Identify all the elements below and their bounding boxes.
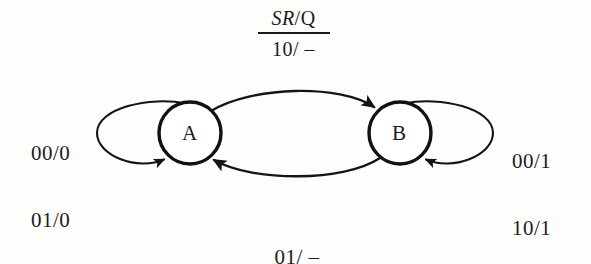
self-loop-labels-b: 00/1 10/1	[512, 107, 551, 264]
transition-label-b-to-a-0: 01/ –	[252, 244, 342, 264]
self-loop-labels-a: 00/0 01/0 11/0	[31, 99, 70, 264]
legend-numerator-output: /Q	[295, 7, 316, 29]
state-label-b: B	[392, 123, 406, 144]
self-loop-label-b-0: 00/1	[512, 149, 551, 174]
self-loop-label-b-1: 10/1	[512, 216, 551, 241]
state-diagram-canvas: A B SR/Q 10/ – 00/0 01/0 11/0 00/1 10/1 …	[0, 0, 591, 264]
transition-arc-a-to-b	[211, 91, 374, 111]
legend-numerator: SR/Q	[241, 6, 346, 31]
legend-denominator: 10/ –	[241, 36, 346, 62]
self-loop-label-a-1: 01/0	[31, 208, 70, 233]
transition-arc-b-to-a	[214, 158, 380, 176]
legend-numerator-inputs: SR	[271, 7, 294, 29]
self-loop-label-a-0: 00/0	[31, 141, 70, 166]
legend-fraction-bar	[258, 32, 330, 34]
transition-labels-b-to-a: 01/ – 11/ –	[252, 202, 342, 264]
state-label-a: A	[182, 123, 197, 144]
legend-key: SR/Q 10/ –	[241, 6, 346, 62]
